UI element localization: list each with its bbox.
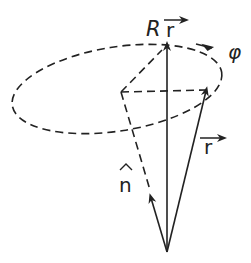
n-hat-vector-line xyxy=(151,198,167,252)
rotation-ellipse xyxy=(6,31,229,147)
dashed-radius-rotated xyxy=(121,50,162,92)
dashed-radius-r xyxy=(121,90,206,92)
label-n-hat: n xyxy=(119,173,132,197)
label-phi: φ xyxy=(228,40,241,64)
label-n-hat-caret-icon xyxy=(120,164,132,170)
rotation-diagram: R r φ r n xyxy=(0,0,251,263)
label-rotation-operator: R xyxy=(146,17,161,41)
label-rotated-r: r xyxy=(166,18,175,42)
r-vector-line xyxy=(167,91,206,252)
